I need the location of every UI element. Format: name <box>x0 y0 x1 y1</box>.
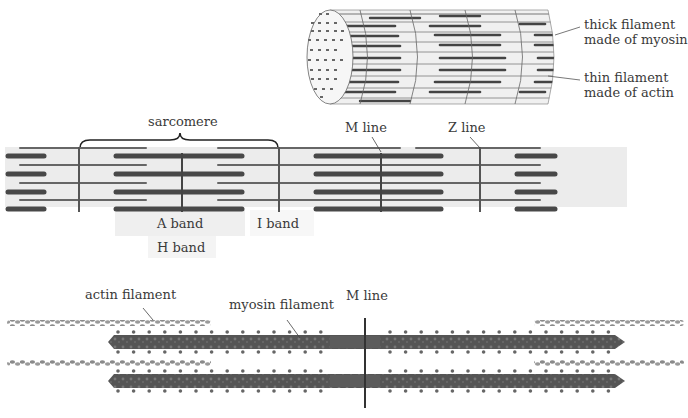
thin-filament-label-line1: thin filament <box>584 70 674 85</box>
myosin-filament-label: myosin filament <box>229 297 334 312</box>
myofibril-cylinder-diagram <box>0 0 688 418</box>
actin-filament-right-1 <box>534 320 684 326</box>
sarcomere-label: sarcomere <box>148 114 218 129</box>
a-band-label: A band <box>157 216 203 231</box>
molecular-filament-diagram <box>7 308 684 408</box>
thin-filament-label-line2: made of actin <box>584 85 674 100</box>
m-line-molecular-label: M line <box>346 288 388 303</box>
i-band-label: I band <box>257 216 299 231</box>
thick-filament-label-line1: thick filament <box>584 17 688 32</box>
thick-filament-label-line2: made of myosin <box>584 32 688 47</box>
cylinder-body <box>307 10 560 104</box>
thin-filament-label: thin filament made of actin <box>584 70 674 100</box>
sarcomere-brace <box>80 133 278 148</box>
actin-filament-left-2 <box>7 360 211 366</box>
sarcomere-band-diagram <box>5 133 627 258</box>
actin-filament-left-1 <box>7 320 211 326</box>
h-band-label: H band <box>157 240 205 255</box>
thick-filament-label: thick filament made of myosin <box>584 17 688 47</box>
actin-filament-label: actin filament <box>85 287 176 302</box>
thick-filament-leader <box>555 27 580 35</box>
m-line-label: M line <box>345 120 387 135</box>
actin-filament-right-2 <box>534 360 684 366</box>
z-line-label: Z line <box>448 120 486 135</box>
